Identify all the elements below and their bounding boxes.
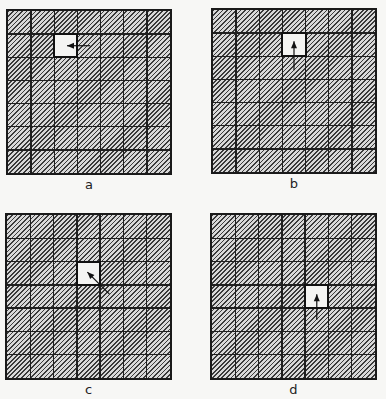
panel-label-a: a [79,177,99,192]
grid-panel-a [6,9,172,175]
arrow-up-icon [212,215,375,378]
grid-panel-d [210,213,377,380]
grid-panel-c [5,213,172,380]
panel-label-d: d [284,382,304,397]
panel-label-b: b [284,176,304,191]
arrow-up-left-icon [7,215,170,378]
arrow-up-icon [213,10,375,172]
arrow-left-icon [8,11,170,173]
grid-panel-b [211,8,377,174]
panel-label-c: c [79,382,99,397]
